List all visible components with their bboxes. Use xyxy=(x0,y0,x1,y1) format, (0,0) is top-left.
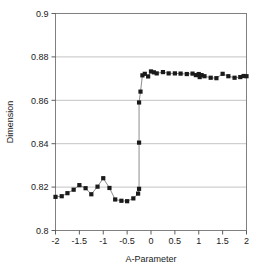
chart-container: -2-1.5-1-0.500.511.52 0.80.820.840.860.8… xyxy=(0,0,262,268)
y-axis-title: Dimension xyxy=(5,101,15,144)
data-point-marker xyxy=(137,141,141,145)
data-point-marker xyxy=(173,71,177,75)
data-point-marker xyxy=(77,183,81,187)
x-tick-label: -1.5 xyxy=(72,236,88,246)
x-tick-label: -0.5 xyxy=(119,236,135,246)
data-point-marker xyxy=(137,187,141,191)
y-tick-label: 0.88 xyxy=(31,52,49,62)
data-point-marker xyxy=(146,74,150,78)
data-point-marker xyxy=(95,185,99,189)
data-point-marker xyxy=(89,192,93,196)
grid-lines xyxy=(56,14,247,188)
y-tick-label: 0.9 xyxy=(36,9,49,19)
data-point-marker xyxy=(209,76,213,80)
x-tick-label: 1 xyxy=(196,236,201,246)
data-point-marker xyxy=(53,195,57,199)
data-point-marker xyxy=(214,76,218,80)
y-tick-labels: 0.80.820.840.860.880.9 xyxy=(31,9,49,236)
data-point-marker xyxy=(101,176,105,180)
data-point-marker xyxy=(232,76,236,80)
x-tick-label: 2 xyxy=(244,236,249,246)
data-point-marker xyxy=(226,74,230,78)
x-tick-label: 0.5 xyxy=(169,236,182,246)
data-series-line xyxy=(56,71,247,201)
data-point-marker xyxy=(179,72,183,76)
data-point-marker xyxy=(155,71,159,75)
data-point-marker xyxy=(221,72,225,76)
plot-frame xyxy=(56,14,247,231)
y-tick-label: 0.82 xyxy=(31,182,49,192)
data-point-marker xyxy=(107,186,111,190)
y-tick-label: 0.86 xyxy=(31,96,49,106)
data-point-marker xyxy=(202,74,206,78)
data-point-marker xyxy=(244,74,248,78)
data-point-marker xyxy=(138,90,142,94)
y-tick-label: 0.84 xyxy=(31,139,49,149)
x-tick-label: -1 xyxy=(99,236,107,246)
data-point-marker xyxy=(113,197,117,201)
x-axis-title: A-Parameter xyxy=(125,254,176,264)
x-tick-label: 0 xyxy=(148,236,153,246)
data-point-marker xyxy=(167,71,171,75)
data-point-marker xyxy=(72,188,76,192)
x-axis-ticks xyxy=(56,231,247,235)
data-point-marker xyxy=(119,199,123,203)
data-point-marker xyxy=(136,192,140,196)
x-tick-label: 1.5 xyxy=(216,236,229,246)
data-point-marker xyxy=(131,196,135,200)
data-point-marker xyxy=(65,191,69,195)
y-tick-label: 0.8 xyxy=(36,226,49,236)
data-point-marker xyxy=(83,186,87,190)
x-tick-labels: -2-1.5-1-0.500.511.52 xyxy=(51,236,249,246)
data-point-marker xyxy=(60,194,64,198)
series-polyline xyxy=(56,71,247,201)
data-point-markers xyxy=(53,69,248,203)
line-chart: -2-1.5-1-0.500.511.52 0.80.820.840.860.8… xyxy=(0,0,262,268)
data-point-marker xyxy=(185,72,189,76)
data-point-marker xyxy=(161,70,165,74)
data-point-marker xyxy=(125,199,129,203)
x-tick-label: -2 xyxy=(51,236,59,246)
data-point-marker xyxy=(137,100,141,104)
